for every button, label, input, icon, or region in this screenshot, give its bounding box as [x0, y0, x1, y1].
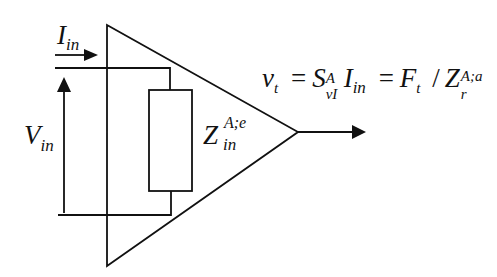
eq-term3-sub: t: [416, 80, 420, 96]
eq-term2-main: I: [344, 63, 353, 93]
eq-lhs-sub: t: [274, 80, 278, 96]
input-impedance-box: [149, 90, 192, 191]
eq-divide: /: [432, 63, 440, 93]
transfer-equation: vt =SAvIIin =Ft /ZA;ar: [262, 65, 490, 92]
eq-equals-2: =: [379, 63, 394, 93]
eq-term4-sub: r: [461, 87, 467, 102]
label-main: Z: [203, 120, 218, 150]
eq-term1-sup: A: [326, 71, 335, 86]
label-sub: in: [223, 136, 236, 153]
input-current-label: Iin: [57, 22, 79, 49]
label-sub: in: [41, 136, 54, 155]
label-sub: in: [66, 35, 79, 54]
eq-term3-main: F: [400, 63, 417, 93]
eq-term4-sup: A;a: [461, 69, 483, 84]
eq-term1-sub: vI: [326, 87, 338, 102]
input-voltage-label: Vin: [24, 122, 54, 149]
voltage-arrow-icon: [57, 77, 71, 92]
input-wire-bottom: [58, 191, 171, 215]
eq-term1-main: S: [312, 63, 326, 93]
output-arrow-icon: [352, 125, 366, 139]
eq-term2-sub: in: [353, 78, 366, 97]
label-main: V: [24, 120, 41, 150]
eq-lhs-main: v: [262, 63, 274, 93]
eq-term4-main: Z: [445, 63, 460, 93]
eq-equals-1: =: [291, 63, 306, 93]
input-wire-top: [55, 68, 170, 90]
current-arrow-icon: [84, 49, 98, 61]
label-sup: A;e: [224, 115, 246, 131]
label-main: I: [57, 20, 66, 50]
input-impedance-label: Z A;e in: [203, 122, 218, 149]
